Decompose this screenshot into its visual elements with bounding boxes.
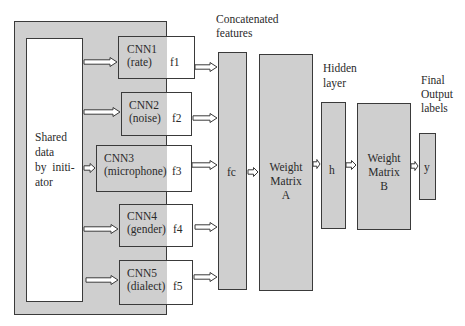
arrow-h-wb-icon <box>346 161 356 170</box>
arrow-wa-h-icon <box>313 160 320 169</box>
arrows-layer <box>0 0 465 326</box>
arrow-source-cnn3-icon <box>84 164 95 173</box>
arrow-source-cnn4-icon <box>84 225 118 234</box>
arrow-fc-wa-icon <box>248 168 258 177</box>
arrow-f4-fc-icon <box>195 223 217 232</box>
arrow-source-cnn5-icon <box>86 276 118 285</box>
arrow-f2-fc-icon <box>193 114 217 123</box>
arrow-source-cnn2-icon <box>84 108 120 117</box>
arrow-f3-fc-icon <box>192 161 217 170</box>
arrow-source-cnn1-icon <box>84 58 117 67</box>
arrow-wb-y-icon <box>411 162 418 171</box>
arrow-f5-fc-icon <box>194 273 217 282</box>
arrow-f1-fc-icon <box>195 63 217 72</box>
